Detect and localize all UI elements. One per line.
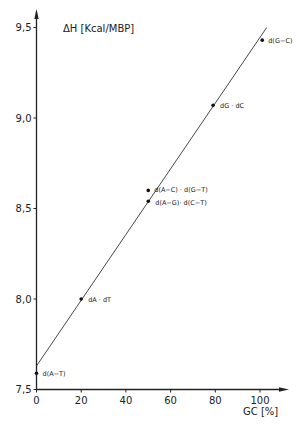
- fit-line-group: [37, 28, 267, 366]
- data-point-label: d(A−C) · d(G−T): [154, 186, 207, 194]
- data-point: [146, 199, 150, 203]
- x-tick-label: 40: [120, 395, 133, 406]
- y-tick-label: 8,5: [16, 203, 32, 214]
- data-point-label: d(A−T): [43, 370, 66, 378]
- data-point-label: dG · dC: [220, 102, 244, 110]
- data-point: [260, 38, 264, 42]
- y-tick-label: 9,5: [16, 22, 32, 33]
- y-axis-label: ΔH [Kcal/MBP]: [63, 23, 134, 34]
- data-point-label: dA · dT: [88, 296, 111, 304]
- data-point: [211, 104, 215, 108]
- y-tick-label: 7,5: [16, 384, 32, 395]
- chart: 7,58,08,59,09,5020406080100 d(A−T)dA · d…: [0, 0, 302, 436]
- y-axis-arrow: [34, 9, 38, 19]
- x-tick-label: 60: [164, 395, 177, 406]
- data-point: [35, 371, 39, 375]
- data-point-label: d(G−C): [268, 37, 292, 45]
- x-axis-arrow: [279, 387, 289, 391]
- y-tick-label: 8,0: [16, 294, 32, 305]
- data-point: [79, 297, 83, 301]
- data-points: d(A−T)dA · dTd(A−C) · d(G−T)d(A−G)· d(C−…: [35, 37, 293, 379]
- data-point-label: d(A−G)· d(C−T): [155, 199, 206, 207]
- x-tick-label: 0: [33, 395, 39, 406]
- regression-line: [37, 28, 267, 366]
- data-point: [146, 189, 150, 193]
- x-tick-label: 20: [75, 395, 88, 406]
- x-tick-label: 80: [209, 395, 222, 406]
- x-axis-label: GC [%]: [243, 406, 278, 417]
- x-tick-label: 100: [250, 395, 269, 406]
- y-tick-label: 9,0: [16, 113, 32, 124]
